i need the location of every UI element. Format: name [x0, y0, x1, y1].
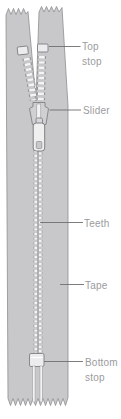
- pull-tab-hole: [36, 142, 42, 149]
- label-slider-line1: Slider: [83, 103, 110, 118]
- label-top-stop: Top stop: [82, 39, 102, 69]
- label-bottom-stop-line2: stop: [85, 370, 118, 385]
- label-bottom-stop: Bottom stop: [85, 355, 118, 385]
- label-bottom-stop-line1: Bottom: [85, 355, 118, 370]
- label-top-stop-line2: stop: [82, 54, 102, 69]
- label-slider: Slider: [83, 103, 110, 118]
- top-stop-left: [17, 46, 28, 55]
- label-tape-line1: Tape: [85, 278, 108, 293]
- bottom-stop: [30, 354, 45, 367]
- label-top-stop-line1: Top: [82, 39, 102, 54]
- label-tape: Tape: [85, 278, 108, 293]
- label-teeth-line1: Teeth: [84, 216, 109, 231]
- zipper-diagram: Top stop Slider Teeth Tape Bottom stop: [0, 0, 121, 419]
- label-teeth: Teeth: [84, 216, 109, 231]
- open-teeth-right: [41, 56, 42, 100]
- top-stop-right: [38, 44, 49, 52]
